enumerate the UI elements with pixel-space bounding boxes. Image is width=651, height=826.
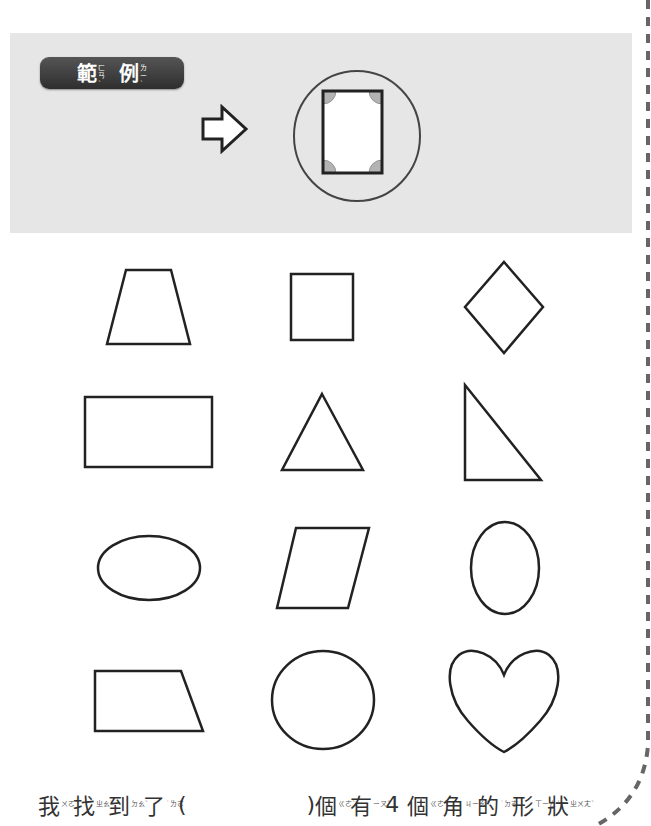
sentence-char: 個ㄍㄜˋ <box>315 788 350 820</box>
shape-heart[interactable] <box>450 651 558 752</box>
fill-in-sentence: 我ㄨㄛˇ 找ㄓㄠˇ 到ㄉㄠˋ 了˙ㄌㄜ ( ) 個ㄍㄜˋ 有ㄧㄡˇ 4 個ㄍㄜˋ… <box>38 788 582 820</box>
sentence-char: 我ㄨㄛˇ <box>38 788 73 820</box>
sentence-char: 角ㄐㄧㄠˇ <box>442 788 477 820</box>
sentence-char: 形ㄒㄧㄥˊ <box>512 788 547 820</box>
sentence-char: 到ㄉㄠˋ <box>108 788 143 820</box>
shape-right-trapezoid[interactable] <box>95 671 203 731</box>
shape-circle[interactable] <box>272 651 374 749</box>
sentence-char: 找ㄓㄠˇ <box>73 788 108 820</box>
number-four: 4 <box>385 792 399 817</box>
shape-trapezoid[interactable] <box>107 270 190 344</box>
sentence-char: 的˙ㄉㄜ <box>477 788 512 820</box>
open-paren: ( <box>178 792 187 817</box>
shape-right-triangle[interactable] <box>465 385 541 480</box>
shape-vertical-ellipse[interactable] <box>471 522 539 614</box>
sentence-char: 個ㄍㄜˋ <box>407 788 442 820</box>
shape-rhombus[interactable] <box>465 262 543 353</box>
shape-rectangle[interactable] <box>85 397 212 467</box>
close-paren: ) <box>307 792 316 817</box>
shape-triangle[interactable] <box>282 394 363 470</box>
sentence-char: 有ㄧㄡˇ <box>350 788 385 820</box>
sentence-char: 狀ㄓㄨㄤˋ <box>547 788 582 820</box>
shape-parallelogram[interactable] <box>277 528 369 608</box>
sentence-char: 了˙ㄌㄜ <box>143 788 178 820</box>
shape-square[interactable] <box>291 274 353 340</box>
shapes-grid <box>0 0 651 826</box>
shape-horizontal-ellipse[interactable] <box>98 536 200 600</box>
